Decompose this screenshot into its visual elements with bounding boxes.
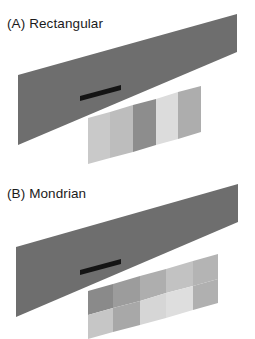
panel-mondrian: (B) Mondrian	[0, 170, 255, 339]
stripe-5	[178, 86, 201, 139]
stripe-4	[156, 92, 178, 145]
stripe-2	[110, 105, 133, 158]
stimulus-figure: (A) Rectangular (B) Mondrian	[0, 0, 255, 339]
stripe-1	[88, 112, 110, 164]
panel-rectangular: (A) Rectangular	[0, 0, 255, 169]
stripe-3	[133, 99, 156, 152]
panel-b-label: (B) Mondrian	[7, 186, 86, 202]
panel-a-label: (A) Rectangular	[7, 16, 103, 32]
